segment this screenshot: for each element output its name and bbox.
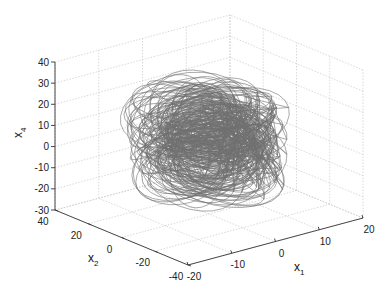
svg-text:20: 20: [71, 230, 83, 241]
svg-text:-10: -10: [231, 259, 246, 270]
svg-text:0: 0: [279, 248, 285, 259]
svg-text:-30: -30: [35, 205, 50, 216]
axis-label-x2: x2: [88, 251, 99, 268]
axis-label-x1: x1: [294, 260, 305, 277]
svg-text:10: 10: [38, 120, 50, 131]
svg-text:-20: -20: [187, 271, 202, 282]
svg-text:10: 10: [320, 236, 332, 247]
axis-label-x4: x4: [11, 127, 28, 138]
svg-text:0: 0: [43, 141, 49, 152]
svg-text:x1: x1: [294, 260, 305, 277]
svg-text:20: 20: [363, 224, 375, 235]
svg-text:-40: -40: [169, 271, 184, 282]
svg-text:20: 20: [38, 99, 50, 110]
trajectory-line: [121, 70, 290, 211]
chart-3d: -30-20-10010203040-40-2002040-20-1001020…: [0, 0, 390, 288]
svg-text:40: 40: [37, 216, 49, 227]
svg-text:30: 30: [38, 78, 50, 89]
svg-text:-20: -20: [35, 183, 50, 194]
svg-text:-10: -10: [35, 162, 50, 173]
svg-text:x4: x4: [11, 127, 28, 138]
svg-text:0: 0: [107, 244, 113, 255]
svg-text:x2: x2: [88, 251, 99, 268]
svg-text:40: 40: [38, 57, 50, 68]
svg-text:-20: -20: [136, 257, 151, 268]
